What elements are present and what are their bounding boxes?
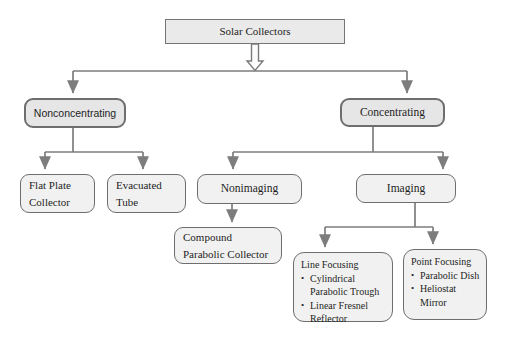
node-line-focusing-title: Line Focusing (301, 258, 389, 272)
node-nonimaging: Nonimaging (197, 174, 302, 204)
node-concentrating-label: Concentrating (360, 105, 425, 121)
node-point-focusing: Point Focusing • Parabolic Dish • Helios… (403, 249, 487, 320)
node-evacuated-tube-label: Evacuated Tube (116, 177, 180, 210)
point-focusing-bullet-2: Heliostat Mirror (420, 282, 483, 309)
node-nonimaging-label: Nonimaging (221, 181, 279, 197)
diagram-canvas: Solar Collectors Nonconcentrating Concen… (0, 0, 509, 339)
node-concentrating: Concentrating (340, 98, 445, 127)
node-nonconcentrating: Nonconcentrating (24, 98, 126, 128)
point-focusing-bullet-item: • Parabolic Dish (411, 269, 483, 283)
point-focusing-bullet-1: Parabolic Dish (420, 269, 483, 283)
node-point-focusing-title: Point Focusing (411, 255, 483, 269)
bullet-icon: • (411, 269, 420, 283)
node-line-focusing: Line Focusing • Cylindrical Parabolic Tr… (293, 252, 393, 322)
line-focusing-bullet-1: Cylindrical Parabolic Trough (310, 272, 389, 299)
node-solar-collectors: Solar Collectors (165, 19, 345, 44)
line-focusing-bullet-2: Linear Fresnel Reflector (310, 299, 389, 326)
concentrating-connector (233, 127, 443, 169)
node-flat-plate-collector-label: Flat Plate Collector (29, 177, 89, 210)
bullet-icon: • (301, 299, 310, 313)
node-evacuated-tube: Evacuated Tube (107, 174, 186, 213)
node-compound-parabolic-collector: Compound Parabolic Collector (174, 227, 282, 264)
tier1-connector (73, 71, 407, 93)
node-compound-parabolic-collector-label: Compound Parabolic Collector (183, 229, 276, 262)
hollow-down-arrow (247, 44, 263, 71)
bullet-icon: • (411, 282, 420, 296)
bullet-icon: • (301, 272, 310, 286)
node-flat-plate-collector: Flat Plate Collector (20, 174, 95, 213)
nonconcentrating-connector (45, 128, 143, 169)
node-imaging: Imaging (356, 174, 456, 203)
line-focusing-bullet-item: • Cylindrical Parabolic Trough (301, 272, 389, 299)
imaging-connector (325, 203, 433, 247)
node-solar-collectors-label: Solar Collectors (219, 24, 290, 39)
line-focusing-bullet-item: • Linear Fresnel Reflector (301, 299, 389, 326)
node-nonconcentrating-label: Nonconcentrating (34, 106, 116, 120)
point-focusing-bullet-item: • Heliostat Mirror (411, 282, 483, 309)
node-imaging-label: Imaging (387, 181, 425, 197)
